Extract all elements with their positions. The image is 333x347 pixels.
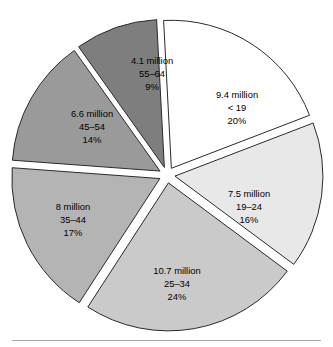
pie-slice-under-19-value-text: 9.4 million bbox=[216, 89, 258, 100]
pie-slice-age-35-44-category-text: 35–44 bbox=[60, 214, 86, 225]
pie-slice-age-35-44-percent-text: 17% bbox=[64, 227, 83, 238]
pie-chart-figure: 9.4 million< 1920%7.5 million19–2416%10.… bbox=[0, 0, 333, 347]
pie-slice-age-25-34-percent-text: 24% bbox=[168, 291, 187, 302]
pie-slice-age-25-34-category-text: 25–34 bbox=[164, 278, 190, 289]
pie-slice-age-19-24-value-text: 7.5 million bbox=[228, 188, 270, 199]
pie-slice-age-45-54-value-text: 6.6 million bbox=[71, 108, 113, 119]
pie-slice-age-19-24-percent-text: 16% bbox=[240, 214, 259, 225]
pie-slice-under-19-percent-text: 20% bbox=[228, 115, 247, 126]
pie-slice-age-55-64-category-text: 55–64 bbox=[139, 68, 165, 79]
pie-chart-svg: 9.4 million< 1920%7.5 million19–2416%10.… bbox=[0, 0, 333, 347]
pie-slice-under-19-category-text: < 19 bbox=[228, 102, 247, 113]
pie-slice-age-55-64-percent-text: 9% bbox=[145, 81, 159, 92]
pie-slice-age-35-44-value-text: 8 million bbox=[56, 201, 90, 212]
pie-slice-age-19-24-category-text: 19–24 bbox=[236, 201, 262, 212]
pie-slice-age-25-34-value-text: 10.7 million bbox=[153, 265, 200, 276]
pie-slice-age-45-54-percent-text: 14% bbox=[83, 134, 102, 145]
pie-slice-age-45-54-category-text: 45–54 bbox=[79, 121, 105, 132]
pie-slice-age-55-64-value-text: 4.1 million bbox=[131, 55, 173, 66]
footer-divider bbox=[12, 340, 321, 341]
